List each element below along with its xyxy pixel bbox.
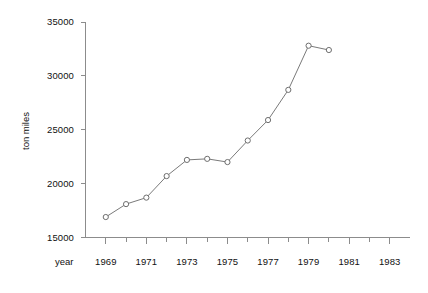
data-point[interactable] [103, 214, 108, 219]
x-tick-label: 1983 [364, 256, 416, 267]
data-point[interactable] [265, 117, 270, 122]
plot-area [0, 0, 428, 293]
x-tick-marks [106, 238, 390, 244]
data-point[interactable] [245, 138, 250, 143]
data-point[interactable] [164, 173, 169, 178]
y-tick-marks [81, 22, 86, 238]
y-tick-label: 20000 [22, 178, 74, 189]
data-point[interactable] [205, 156, 210, 161]
series-line-ton-miles [106, 46, 329, 217]
data-point[interactable] [144, 195, 149, 200]
data-point[interactable] [184, 157, 189, 162]
data-point[interactable] [225, 159, 230, 164]
data-series [103, 43, 331, 220]
data-point[interactable] [123, 202, 128, 207]
y-axis-title: ton miles [20, 112, 31, 150]
data-point[interactable] [326, 47, 331, 52]
y-tick-label: 15000 [22, 232, 74, 243]
axes-group [86, 22, 411, 238]
y-tick-label: 30000 [22, 70, 74, 81]
data-point[interactable] [286, 87, 291, 92]
data-point[interactable] [306, 43, 311, 48]
y-tick-label: 35000 [22, 16, 74, 27]
x-axis-title: year [55, 256, 73, 267]
line-chart: 3500030000250002000015000 19691971197319… [0, 0, 428, 293]
